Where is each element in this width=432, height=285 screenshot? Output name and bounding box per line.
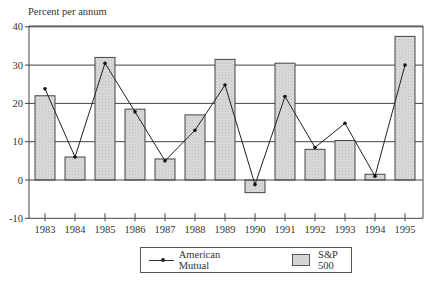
x-tick-label: 1993: [335, 224, 356, 235]
x-tick-label: 1990: [245, 224, 266, 235]
chart: Percent per annum 403020100-10 198319841…: [0, 0, 432, 245]
bar-1989: [215, 59, 235, 180]
point-1986: [133, 110, 137, 114]
y-tick-label: -10: [9, 213, 23, 224]
y-axis-title: Percent per annum: [28, 6, 107, 17]
y-tick-label: 0: [18, 175, 23, 186]
legend: American Mutual S&P 500: [140, 247, 352, 273]
bar-1985: [95, 57, 115, 180]
line-marker-icon: [149, 260, 174, 261]
bar-series-sp500: [35, 36, 415, 192]
x-tick-label: 1991: [275, 224, 296, 235]
x-tick-label: 1989: [215, 224, 236, 235]
point-1991: [283, 95, 287, 99]
x-tick-label: 1988: [185, 224, 206, 235]
x-axis-ticks: 1983198419851986198719881989199019911992…: [35, 213, 416, 235]
bar-1991: [275, 63, 295, 180]
legend-label-sp500: S&P 500: [318, 249, 351, 271]
bar-1993: [335, 141, 355, 180]
bar-1995: [395, 36, 415, 180]
legend-item-american-mutual: American Mutual: [149, 249, 244, 271]
y-tick-label: 10: [13, 136, 24, 147]
y-axis-ticks: 403020100-10: [9, 21, 29, 224]
point-1993: [343, 122, 347, 126]
point-1995: [403, 63, 407, 67]
point-1987: [163, 159, 167, 163]
bar-1988: [185, 115, 205, 180]
bar-1986: [125, 109, 145, 180]
legend-item-sp500: S&P 500: [292, 249, 351, 271]
bar-1983: [35, 96, 55, 180]
point-1984: [73, 155, 77, 159]
x-tick-label: 1984: [65, 224, 87, 235]
bar-swatch-icon: [292, 254, 310, 266]
y-tick-label: 20: [13, 98, 24, 109]
x-tick-label: 1985: [95, 224, 116, 235]
x-tick-label: 1992: [305, 224, 326, 235]
y-tick-label: 30: [13, 60, 24, 71]
point-1992: [313, 146, 317, 150]
x-tick-label: 1983: [35, 224, 56, 235]
x-tick-label: 1987: [155, 224, 176, 235]
point-1994: [373, 174, 377, 178]
bar-1984: [65, 157, 85, 180]
point-1990: [253, 183, 257, 187]
point-1983: [43, 87, 47, 91]
point-1989: [223, 83, 227, 87]
y-tick-label: 40: [13, 21, 24, 32]
x-tick-label: 1986: [125, 224, 146, 235]
point-1985: [103, 61, 107, 65]
x-tick-label: 1994: [365, 224, 387, 235]
x-tick-label: 1995: [395, 224, 416, 235]
point-1988: [193, 128, 197, 132]
legend-label-american-mutual: American Mutual: [179, 249, 245, 271]
bar-1992: [305, 149, 325, 180]
